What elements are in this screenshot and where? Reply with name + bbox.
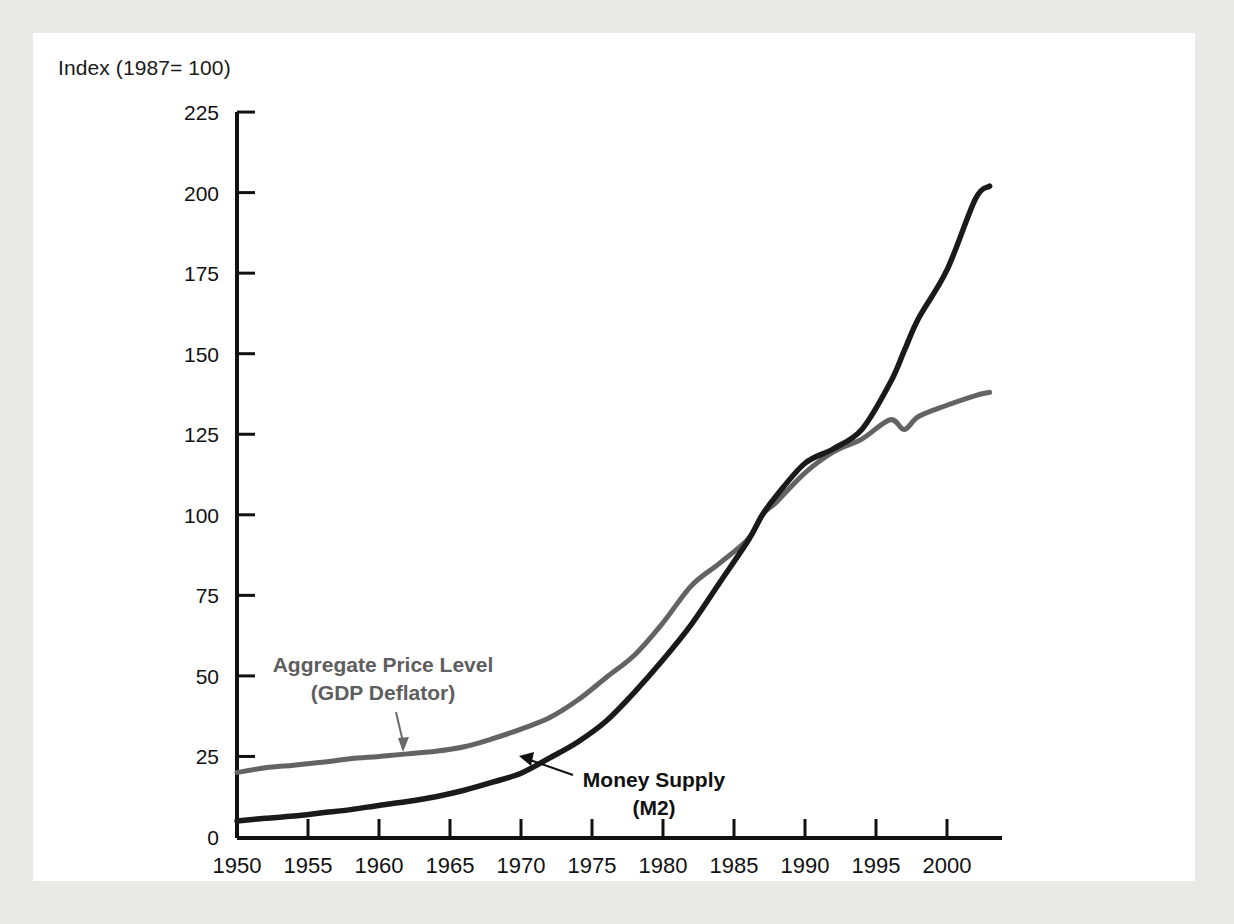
annotation-aggregate-price-level-arrowhead bbox=[398, 737, 409, 752]
y-axis-tick-label: 150 bbox=[184, 343, 219, 366]
x-axis-ticks bbox=[237, 819, 947, 837]
x-axis-tick-label: 1990 bbox=[781, 853, 830, 878]
series-line-money-supply bbox=[237, 186, 990, 821]
y-axis-tick-label: 125 bbox=[184, 423, 219, 446]
x-axis-tick-label: 2000 bbox=[923, 853, 972, 878]
x-axis-tick-label: 1960 bbox=[355, 853, 404, 878]
x-axis-tick-label: 1985 bbox=[710, 853, 759, 878]
y-axis-ticks bbox=[237, 112, 255, 756]
annotation-money-supply: Money Supply (M2) bbox=[519, 752, 725, 819]
y-axis-tick-label: 0 bbox=[207, 826, 219, 849]
figure-root: Index (1987= 100) 0255075100125150175200… bbox=[0, 0, 1234, 924]
y-axis-tick-label: 100 bbox=[184, 504, 219, 527]
annotation-aggregate-price-level-leader bbox=[396, 712, 403, 742]
annotation-money-supply-line1: Money Supply bbox=[583, 768, 726, 791]
x-axis-tick-label: 1980 bbox=[639, 853, 688, 878]
annotation-money-supply-line2: (M2) bbox=[632, 796, 675, 819]
y-axis-tick-label: 225 bbox=[184, 101, 219, 124]
annotation-money-supply-arrowhead bbox=[519, 752, 534, 766]
y-axis: 0255075100125150175200225 bbox=[184, 101, 255, 849]
chart-plot-area: 0255075100125150175200225 19501955196019… bbox=[0, 0, 1234, 924]
annotation-aggregate-price-level-line2: (GDP Deflator) bbox=[311, 681, 455, 704]
x-axis-tick-label: 1995 bbox=[852, 853, 901, 878]
y-axis-tick-label: 25 bbox=[196, 745, 219, 768]
x-axis-tick-label: 1965 bbox=[426, 853, 475, 878]
x-axis-tick-labels: 1950195519601965197019751980198519901995… bbox=[213, 853, 972, 878]
x-axis: 1950195519601965197019751980198519901995… bbox=[213, 819, 1002, 878]
y-axis-tick-label: 75 bbox=[196, 584, 219, 607]
y-axis-tick-label: 175 bbox=[184, 262, 219, 285]
annotation-aggregate-price-level: Aggregate Price Level (GDP Deflator) bbox=[273, 653, 494, 752]
y-axis-tick-label: 50 bbox=[196, 665, 219, 688]
data-series-group bbox=[237, 186, 990, 821]
x-axis-tick-label: 1955 bbox=[284, 853, 333, 878]
annotation-aggregate-price-level-line1: Aggregate Price Level bbox=[273, 653, 494, 676]
x-axis-tick-label: 1950 bbox=[213, 853, 262, 878]
y-axis-tick-labels: 0255075100125150175200225 bbox=[184, 101, 219, 849]
x-axis-tick-label: 1970 bbox=[497, 853, 546, 878]
y-axis-tick-label: 200 bbox=[184, 182, 219, 205]
x-axis-tick-label: 1975 bbox=[568, 853, 617, 878]
